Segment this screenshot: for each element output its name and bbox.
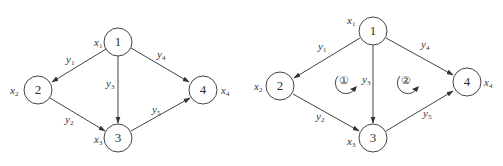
node-2-var: x2 — [253, 80, 263, 94]
loop-1-label: ① — [339, 74, 349, 86]
graph-left-labels: 1 2 3 4 x1 x2 x3 x4 y1 y2 y3 y4 y5 — [9, 34, 230, 147]
edge-3-4 — [131, 98, 190, 131]
node-2-label: 2 — [35, 82, 42, 97]
edge-2-3 — [293, 94, 359, 131]
loop-2-arrowhead-icon — [412, 86, 419, 92]
loop-2-label: ② — [401, 74, 411, 86]
edge-1-4 — [386, 38, 453, 75]
edge-2-3-label: y2 — [64, 113, 74, 127]
node-4-var: x4 — [220, 84, 230, 98]
node-4-label: 4 — [200, 82, 207, 97]
node-1-var: x1 — [346, 14, 356, 28]
edge-3-4-label: y5 — [422, 107, 432, 121]
node-3-var: x3 — [93, 133, 103, 147]
node-3-label: 3 — [115, 130, 122, 145]
node-3-var: x3 — [346, 135, 356, 149]
edge-1-2 — [52, 49, 106, 82]
node-2-var: x2 — [9, 84, 19, 98]
edge-1-4-label: y4 — [420, 38, 430, 52]
edge-1-2 — [294, 38, 360, 78]
edge-1-4-label: y4 — [156, 48, 166, 62]
edge-2-3 — [50, 98, 105, 131]
edge-3-4 — [386, 91, 453, 131]
node-4-label: 4 — [464, 74, 471, 89]
node-4-var: x4 — [483, 76, 493, 90]
loop-1-arrowhead-icon — [350, 86, 357, 92]
node-1-label: 1 — [370, 23, 377, 38]
edge-1-3-label: y3 — [105, 77, 115, 91]
node-2-label: 2 — [277, 78, 284, 93]
network-diagrams: 1 2 3 4 x1 x2 x3 x4 y1 y2 y3 y4 y5 1 2 3… — [0, 0, 503, 166]
node-3-label: 3 — [370, 130, 377, 145]
edge-1-2-label: y1 — [317, 40, 327, 54]
node-1-label: 1 — [115, 34, 122, 49]
edge-1-2-label: y1 — [65, 53, 75, 67]
edge-2-3-label: y2 — [315, 110, 325, 124]
node-1-var: x1 — [93, 36, 103, 50]
edge-3-4-label: y5 — [151, 103, 161, 117]
edge-1-3-label: y3 — [361, 73, 371, 87]
